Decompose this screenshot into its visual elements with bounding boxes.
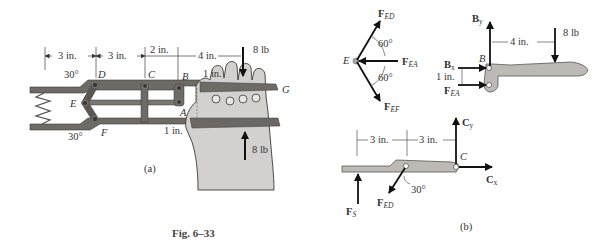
part-a-mechanism: 3 in. 3 in. 2 in. 4 in.	[30, 44, 290, 190]
point-e-fbd: E	[342, 55, 350, 66]
point-b-fbd: B	[479, 53, 486, 64]
member-c-vertical	[141, 84, 148, 122]
fbd-joint-e: 60° 60° E FED FEA FEF	[342, 8, 418, 114]
offset-label-top: 1 in.	[203, 68, 222, 79]
link-ea	[86, 100, 178, 105]
handle-bar-g	[200, 82, 278, 92]
force-arrow-fed	[357, 21, 380, 60]
label-fea: FEA	[402, 56, 418, 69]
label-fef: FEF	[384, 101, 400, 114]
label-fea-handle: FEA	[444, 85, 460, 98]
angle-30-jaw: 30°	[411, 184, 426, 195]
point-e: E	[69, 98, 77, 109]
figure-canvas: 3 in. 3 in. 2 in. 4 in.	[0, 0, 612, 243]
label-fs: FS	[346, 206, 356, 219]
dimension-label-4: 4 in.	[198, 50, 217, 61]
point-g: G	[282, 84, 290, 95]
figure-caption: Fig. 6–33	[172, 227, 215, 239]
spring	[36, 93, 50, 124]
dim-3in-2: 3 in.	[419, 134, 438, 145]
label-cx: Cx	[486, 174, 498, 187]
angle-lower: 60°	[378, 72, 393, 83]
part-b-label: (b)	[460, 221, 473, 233]
part-a-label: (a)	[144, 163, 156, 175]
label-fed-jaw: FED	[377, 197, 394, 210]
offset-label-bottom: 1 in.	[164, 125, 183, 136]
label-by: By	[472, 13, 483, 26]
load-label-handle: 8 lb	[563, 27, 579, 38]
angle-upper: 60°	[378, 38, 393, 49]
angle-bottom: 30°	[68, 131, 83, 142]
point-c-fbd: C	[460, 151, 468, 162]
load-label-top: 8 lb	[253, 44, 269, 55]
point-d: D	[97, 69, 106, 80]
load-label-bottom: 8 lb	[252, 144, 268, 155]
point-f: F	[100, 127, 108, 138]
dimension-label-3: 2 in.	[150, 44, 169, 55]
dimension-label-1: 3 in.	[58, 50, 77, 61]
point-a: A	[179, 107, 187, 118]
label-cy: Cy	[462, 117, 474, 130]
point-b: B	[182, 71, 189, 82]
dim-4in: 4 in.	[510, 36, 529, 47]
angle-top: 30°	[64, 69, 79, 80]
fbd-jaw: 3 in. 3 in. 30° C Cy Cx FS FED	[342, 117, 498, 219]
lower-handle-bar	[190, 118, 280, 128]
fbd-handle: 4 in. 8 lb 1 in. B By Bx FEA	[436, 13, 588, 98]
force-arrow-fef	[357, 62, 380, 101]
dim-3in-1: 3 in.	[370, 134, 389, 145]
point-c: C	[148, 69, 156, 80]
jaw-shape	[342, 160, 459, 172]
label-fed: FED	[378, 8, 395, 21]
handle-shape	[484, 62, 588, 92]
dim-1in: 1 in.	[436, 71, 455, 82]
dimension-label-2: 3 in.	[108, 50, 127, 61]
